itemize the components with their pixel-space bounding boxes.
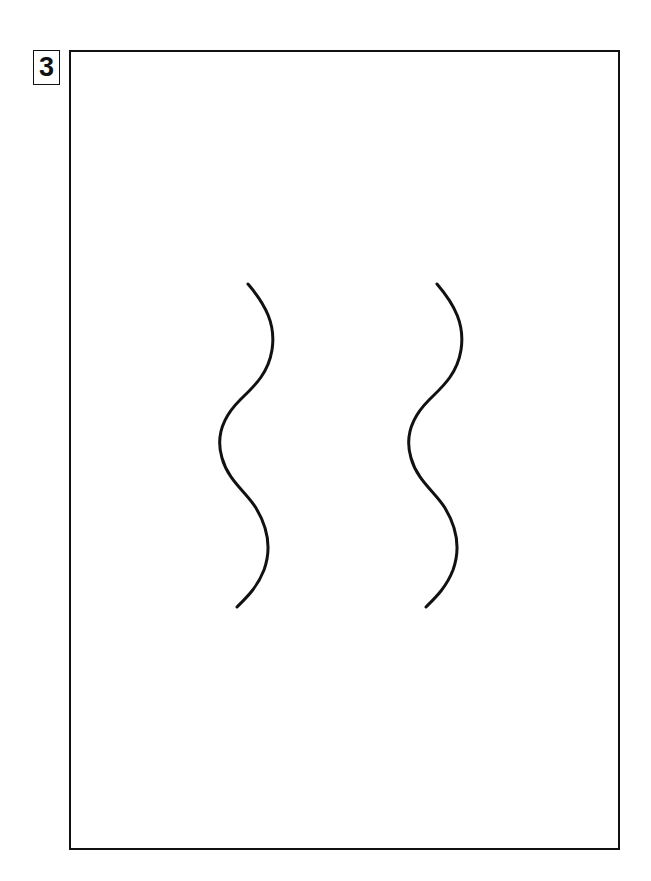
wavy-line-left <box>220 284 273 607</box>
wavy-line-right <box>409 284 462 607</box>
wavy-lines-figure <box>0 0 651 881</box>
